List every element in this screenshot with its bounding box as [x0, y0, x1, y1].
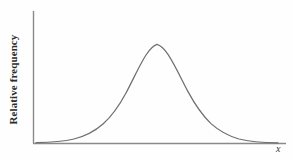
normal-distribution-curve	[36, 44, 278, 142]
figure-container: Relative frequency x	[0, 0, 293, 159]
bell-curve-plot	[0, 0, 293, 159]
y-axis-label: Relative frequency	[0, 0, 26, 159]
x-axis-label: x	[276, 143, 280, 154]
